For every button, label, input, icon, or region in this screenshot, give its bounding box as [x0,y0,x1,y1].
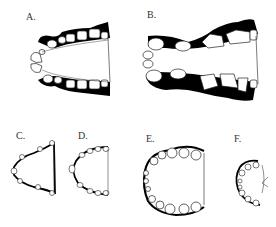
dental-arch-a-drawing [0,0,138,113]
dental-arch-c-drawing [0,113,70,227]
panel-a: A. [0,0,138,113]
panel-f: F. [226,113,276,227]
panel-c: C. [0,113,70,227]
dental-arch-e-drawing [138,113,208,227]
dental-arch-d-drawing [66,113,138,227]
dental-arch-f-drawing [226,113,276,227]
panel-e: E. [138,113,208,227]
panel-b: B. [138,0,276,113]
dental-arch-b-drawing [138,0,276,113]
panel-d: D. [66,113,138,227]
